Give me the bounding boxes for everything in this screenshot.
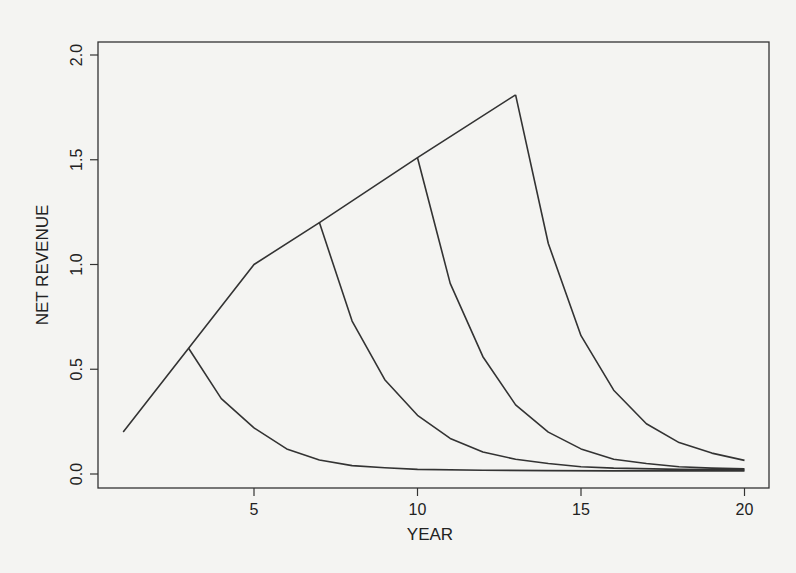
- x-tick-label: 10: [409, 501, 427, 518]
- x-tick-label: 15: [572, 501, 590, 518]
- plot-frame: [98, 42, 769, 488]
- y-tick-label: 0.5: [68, 358, 85, 380]
- y-axis-label: NET REVENUE: [33, 205, 52, 326]
- net-revenue-chart: 5101520 0.00.51.01.52.0 YEAR NET REVENUE: [0, 0, 796, 573]
- series-line-1: [123, 95, 515, 432]
- series-line-2: [189, 348, 745, 471]
- x-tick-label: 20: [736, 501, 754, 518]
- x-tick-label: 5: [250, 501, 259, 518]
- y-tick-label: 2.0: [68, 44, 85, 66]
- x-axis: 5101520: [250, 488, 754, 518]
- series-line-4: [418, 158, 745, 469]
- y-axis: 0.00.51.01.52.0: [68, 44, 98, 485]
- series-line-3: [319, 223, 744, 470]
- series-lines: [123, 95, 744, 471]
- series-line-5: [516, 95, 745, 461]
- y-tick-label: 1.0: [68, 253, 85, 275]
- y-tick-label: 0.0: [68, 463, 85, 485]
- y-tick-label: 1.5: [68, 149, 85, 171]
- x-axis-label: YEAR: [407, 525, 453, 544]
